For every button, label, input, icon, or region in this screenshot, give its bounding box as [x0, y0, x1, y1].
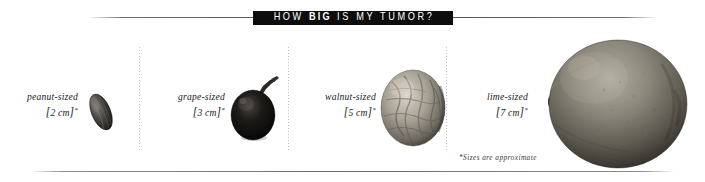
- footnote-sizes-approximate: *Sizes are approximate: [459, 153, 537, 162]
- specimen-size: [3 cm]*: [149, 104, 225, 121]
- title-emphasis: BIG: [309, 12, 332, 23]
- grape-photo: [223, 70, 285, 144]
- specimen-name: grape-sized: [149, 90, 225, 104]
- size-value: 2 cm: [50, 107, 69, 118]
- size-item-label-walnut: walnut-sized [5 cm]*: [294, 90, 376, 121]
- specimen-name: walnut-sized: [294, 90, 376, 104]
- size-value: 7 cm: [500, 107, 519, 118]
- walnut-photo: [374, 56, 452, 156]
- page-title: HOW BIG IS MY TUMOR?: [272, 13, 435, 23]
- size-item-label-lime: lime-sized [7 cm]*: [450, 90, 528, 121]
- size-item-grape: grape-sized [3 cm]*: [139, 28, 288, 156]
- size-value: 5 cm: [348, 107, 367, 118]
- size-item-walnut: walnut-sized [5 cm]*: [288, 28, 446, 156]
- lime-photo: [534, 30, 696, 175]
- specimen-size: [5 cm]*: [294, 104, 376, 121]
- size-item-lime: lime-sized [7 cm]*: [446, 28, 705, 156]
- title-suffix: IS MY TUMOR?: [332, 12, 434, 23]
- asterisk-marker: *: [524, 106, 528, 114]
- tumor-size-infographic: HOW BIG IS MY TUMOR? peanut-sized [2 cm]…: [0, 0, 705, 182]
- peanut-photo: [84, 88, 118, 136]
- bottom-divider-rule: [30, 171, 675, 172]
- title-prefix: HOW: [274, 12, 309, 23]
- size-item-peanut: peanut-sized [2 cm]*: [0, 28, 139, 156]
- asterisk-marker: *: [74, 106, 78, 114]
- specimen-name: lime-sized: [450, 90, 528, 104]
- specimen-size: [7 cm]*: [450, 104, 528, 121]
- size-item-label-peanut: peanut-sized [2 cm]*: [4, 90, 78, 121]
- size-value: 3 cm: [197, 107, 216, 118]
- title-banner: HOW BIG IS MY TUMOR?: [253, 11, 453, 25]
- specimen-size: [2 cm]*: [4, 104, 78, 121]
- specimen-name: peanut-sized: [4, 90, 78, 104]
- size-item-label-grape: grape-sized [3 cm]*: [149, 90, 225, 121]
